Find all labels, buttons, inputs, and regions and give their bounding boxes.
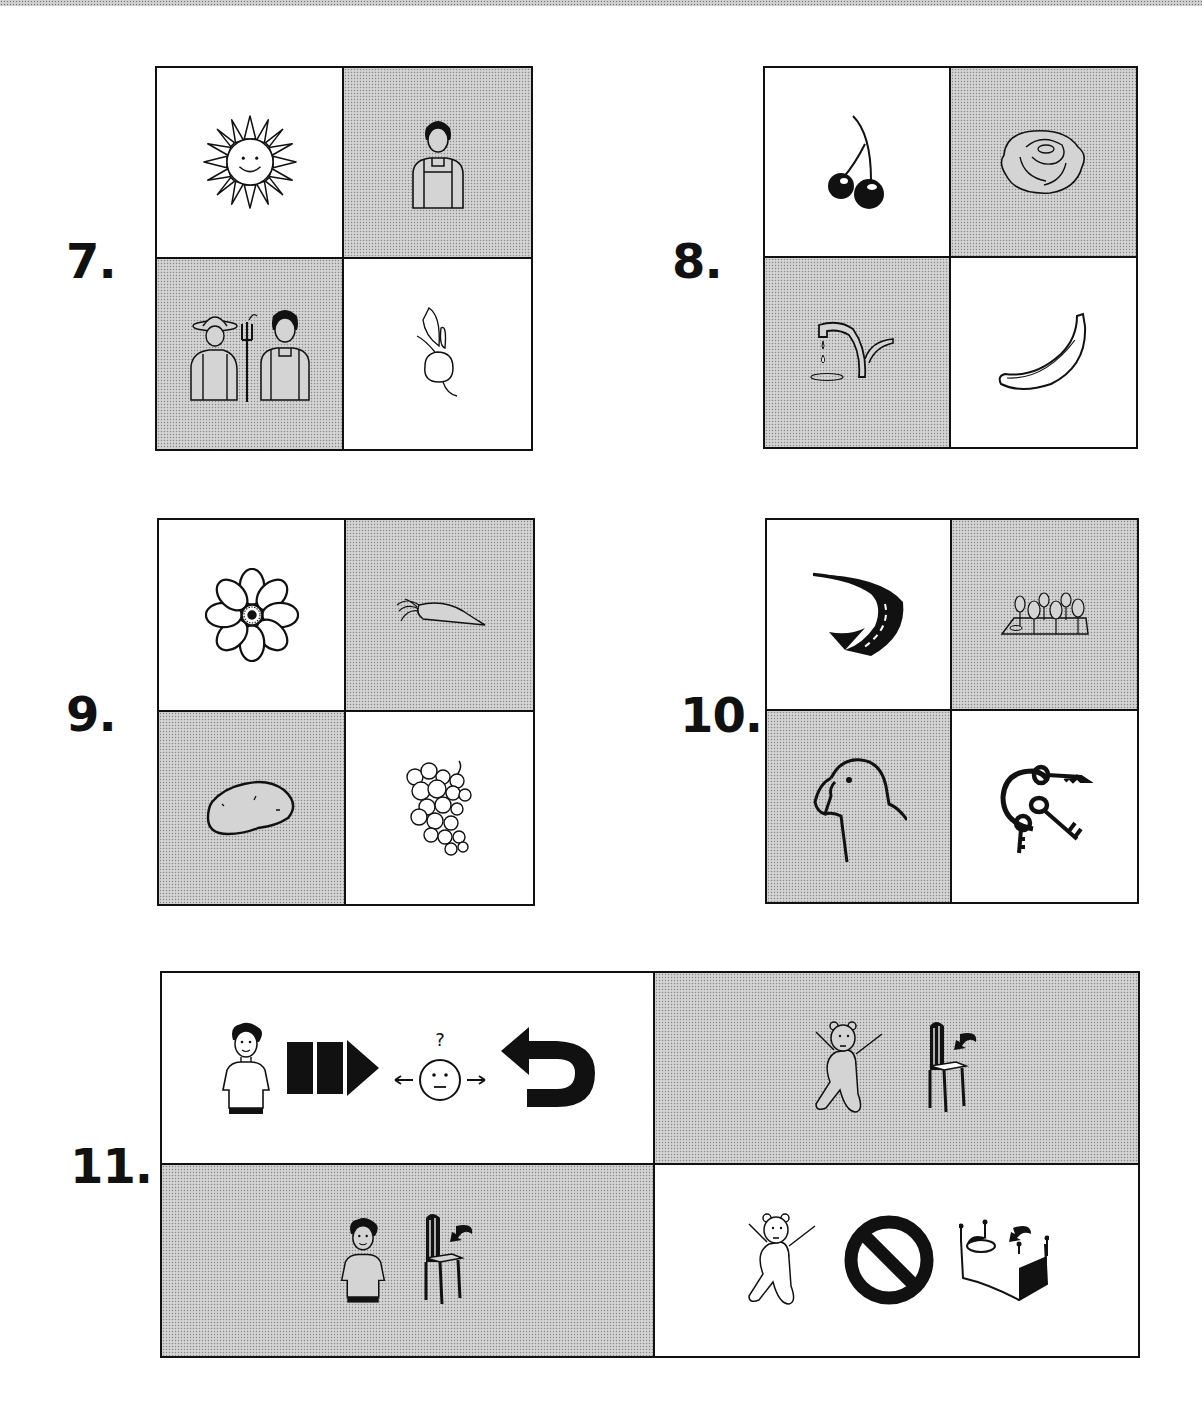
q9-cell-flower[interactable]: flower: [159, 520, 346, 712]
sun-icon: [202, 114, 298, 210]
question-11-grid: boy goes back ? teddy on chair: [160, 971, 1140, 1358]
q9-cell-grapes[interactable]: grapes: [346, 712, 533, 904]
question-10-grid: road park parrot keys: [765, 518, 1139, 904]
svg-text:?: ?: [435, 1029, 445, 1050]
dripping-tap-icon: [809, 319, 905, 385]
no-icon: [843, 1214, 935, 1306]
top-border-strip: [0, 0, 1202, 6]
question-number-7: 7.: [66, 237, 116, 285]
boy-icon: [338, 1213, 388, 1307]
question-number-10: 10.: [680, 691, 762, 739]
parrot-icon: [811, 752, 907, 862]
q11-cell-boy-goes-back[interactable]: boy goes back ?: [162, 973, 655, 1165]
road-icon: [811, 570, 907, 660]
turnip-icon: [411, 306, 465, 402]
q10-cell-road[interactable]: road: [767, 520, 952, 711]
q8-cell-cherries[interactable]: cherries: [765, 68, 951, 258]
question-number-11: 11.: [70, 1142, 152, 1190]
unsure-face-icon: ?: [393, 1028, 487, 1108]
q7-cell-farmers[interactable]: farmers: [157, 259, 344, 450]
q8-cell-lettuce[interactable]: lettuce: [951, 68, 1137, 258]
keys-icon: [997, 759, 1093, 855]
bed-icon: [959, 1218, 1049, 1302]
q7-cell-woman[interactable]: woman: [344, 68, 531, 259]
banana-icon: [995, 310, 1091, 394]
question-9-grid: flower carrot potato: [157, 518, 535, 906]
woman-icon: [408, 114, 468, 210]
q9-cell-potato[interactable]: potato: [159, 712, 346, 904]
q8-cell-banana[interactable]: banana: [951, 258, 1137, 448]
q10-cell-parrot[interactable]: parrot: [767, 711, 952, 902]
boy-icon: [219, 1020, 273, 1116]
chair-icon: [422, 1212, 478, 1308]
q7-cell-turnip[interactable]: turnip: [344, 259, 531, 450]
question-8-grid: cherries lettuce tap banana: [763, 66, 1138, 449]
q10-cell-keys[interactable]: keys: [952, 711, 1137, 902]
question-number-9: 9.: [66, 690, 116, 738]
carrot-icon: [393, 595, 487, 635]
lettuce-icon: [996, 127, 1090, 197]
q9-cell-carrot[interactable]: carrot: [346, 520, 533, 712]
teddy-bear-icon: [745, 1212, 819, 1308]
q11-cell-boy-on-chair[interactable]: boy on chair: [162, 1165, 655, 1357]
turn-back-icon: [501, 1027, 597, 1109]
question-7-grid: sun: [155, 66, 533, 451]
go-forward-icon: [287, 1040, 379, 1096]
question-number-8: 8.: [672, 237, 722, 285]
q8-cell-tap[interactable]: tap: [765, 258, 951, 448]
flower-icon: [205, 568, 299, 662]
chair-icon: [926, 1020, 982, 1116]
park-icon: [1000, 592, 1090, 638]
grapes-icon: [405, 759, 475, 857]
q11-cell-teddy-on-chair[interactable]: teddy on chair: [655, 973, 1138, 1165]
potato-icon: [204, 778, 300, 838]
cherries-icon: [825, 114, 889, 210]
q7-cell-sun[interactable]: sun: [157, 68, 344, 259]
q11-cell-teddy-not-on-bed[interactable]: teddy not on bed: [655, 1165, 1138, 1357]
teddy-bear-icon: [812, 1020, 886, 1116]
farmers-icon: [189, 304, 311, 404]
q10-cell-park[interactable]: park: [952, 520, 1137, 711]
